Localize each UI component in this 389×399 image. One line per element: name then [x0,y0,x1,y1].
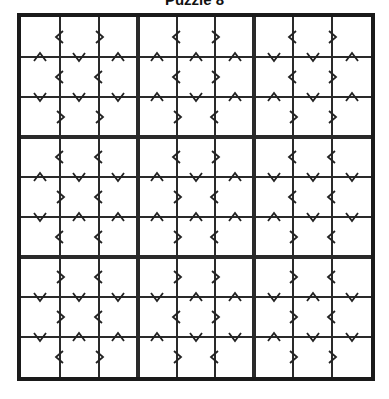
up-caret-icon [266,89,282,105]
up-caret-icon [344,49,360,65]
up-caret-icon [32,169,48,185]
up-caret-icon [110,329,126,345]
up-caret-icon [149,329,165,345]
less-than-icon [169,29,185,45]
up-caret-icon [71,209,87,225]
down-caret-icon [305,169,321,185]
up-caret-icon [110,49,126,65]
less-than-icon [52,229,68,245]
less-than-icon [91,149,107,165]
down-caret-icon [110,89,126,105]
down-caret-icon [32,289,48,305]
down-caret-icon [71,89,87,105]
less-than-icon [207,229,223,245]
greater-than-icon [169,109,185,125]
less-than-icon [324,149,340,165]
greater-than-icon [169,229,185,245]
down-caret-icon [344,329,360,345]
up-caret-icon [149,169,165,185]
puzzle-title: Puzzle 8 [0,0,389,8]
less-than-icon [169,309,185,325]
less-than-icon [285,149,301,165]
greater-than-icon [285,109,301,125]
greater-than-icon [91,29,107,45]
greater-than-icon [169,189,185,205]
less-than-icon [324,229,340,245]
less-than-icon [207,189,223,205]
greater-than-icon [52,309,68,325]
less-than-icon [52,69,68,85]
greater-than-icon [285,269,301,285]
up-caret-icon [227,49,243,65]
down-caret-icon [305,89,321,105]
greater-than-icon [285,349,301,365]
up-caret-icon [71,329,87,345]
less-than-icon [169,69,185,85]
greater-than-icon [169,269,185,285]
less-than-icon [91,309,107,325]
less-than-icon [52,29,68,45]
down-caret-icon [305,329,321,345]
down-caret-icon [344,289,360,305]
greater-than-icon [324,69,340,85]
up-caret-icon [227,289,243,305]
down-caret-icon [188,169,204,185]
down-caret-icon [71,169,87,185]
up-caret-icon [149,89,165,105]
down-caret-icon [32,209,48,225]
up-caret-icon [32,49,48,65]
greater-than-icon [207,269,223,285]
down-caret-icon [305,209,321,225]
less-than-icon [169,149,185,165]
greater-than-icon [52,189,68,205]
up-caret-icon [227,89,243,105]
less-than-icon [285,69,301,85]
down-caret-icon [305,49,321,65]
less-than-icon [91,69,107,85]
less-than-icon [324,189,340,205]
down-caret-icon [227,329,243,345]
greater-than-icon [207,149,223,165]
greater-than-icon [285,309,301,325]
up-caret-icon [149,209,165,225]
greater-than-icon [207,69,223,85]
less-than-icon [91,229,107,245]
down-caret-icon [344,169,360,185]
greater-than-icon [207,309,223,325]
inequality-puzzle-grid [17,13,375,381]
down-caret-icon [32,329,48,345]
up-caret-icon [227,209,243,225]
less-than-icon [207,109,223,125]
up-caret-icon [344,89,360,105]
greater-than-icon [52,269,68,285]
up-caret-icon [266,209,282,225]
greater-than-icon [169,349,185,365]
down-caret-icon [188,89,204,105]
less-than-icon [207,349,223,365]
less-than-icon [285,189,301,205]
up-caret-icon [227,169,243,185]
up-caret-icon [188,209,204,225]
down-caret-icon [266,49,282,65]
up-caret-icon [110,209,126,225]
greater-than-icon [285,229,301,245]
up-caret-icon [188,289,204,305]
less-than-icon [52,149,68,165]
greater-than-icon [324,349,340,365]
less-than-icon [52,349,68,365]
less-than-icon [324,309,340,325]
greater-than-icon [52,109,68,125]
down-caret-icon [188,329,204,345]
down-caret-icon [266,169,282,185]
greater-than-icon [91,349,107,365]
up-caret-icon [149,49,165,65]
down-caret-icon [266,289,282,305]
down-caret-icon [71,289,87,305]
down-caret-icon [110,169,126,185]
greater-than-icon [324,109,340,125]
less-than-icon [91,269,107,285]
less-than-icon [285,29,301,45]
up-caret-icon [188,49,204,65]
down-caret-icon [149,289,165,305]
up-caret-icon [305,289,321,305]
